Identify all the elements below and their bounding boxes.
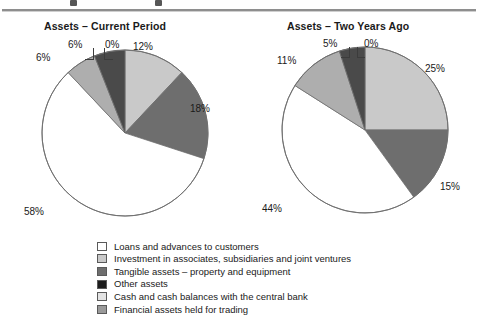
left-chart-title: Assets – Current Period xyxy=(44,20,166,32)
left-slice-label-trading: 6% xyxy=(68,39,82,50)
right-leader-other xyxy=(357,47,365,58)
right-slice-label-loans: 44% xyxy=(262,203,282,214)
legend-swatch-investment xyxy=(97,254,107,263)
legend-swatch-tangible xyxy=(97,267,107,276)
clipped-text-glyph xyxy=(155,0,162,6)
right-slice-label-trading: 5% xyxy=(323,38,337,49)
right-chart-title: Assets – Two Years Ago xyxy=(287,20,409,32)
left-pie-chart xyxy=(41,47,209,219)
pie-slice xyxy=(365,47,448,130)
clipped-text-glyph xyxy=(70,0,77,6)
right-slice-label-investment: 25% xyxy=(425,63,445,74)
legend-item: Tangible assets – property and equipment xyxy=(97,265,351,278)
left-leader-other xyxy=(104,48,113,60)
legend-label-cash: Cash and cash balances with the central … xyxy=(114,292,308,302)
right-slice-label-tangible: 15% xyxy=(440,181,460,192)
legend-item: Other assets xyxy=(97,278,351,291)
legend: Loans and advances to customers Investme… xyxy=(97,240,351,316)
right-slice-label-cash: 11% xyxy=(277,55,296,66)
legend-item: Financial assets held for trading xyxy=(97,303,351,316)
left-slice-label-tangible: 18% xyxy=(190,103,210,114)
legend-swatch-loans xyxy=(97,242,107,251)
left-pie-svg xyxy=(41,47,209,219)
right-slice-label-other: 0% xyxy=(364,38,378,49)
legend-label-tangible: Tangible assets – property and equipment xyxy=(114,267,290,277)
legend-label-other: Other assets xyxy=(114,279,168,289)
legend-item: Investment in associates, subsidiaries a… xyxy=(97,253,351,266)
legend-item: Loans and advances to customers xyxy=(97,240,351,253)
legend-swatch-trading xyxy=(97,305,107,314)
left-leader-trading xyxy=(85,48,94,60)
top-divider-rule-shadow xyxy=(2,11,476,12)
legend-item: Cash and cash balances with the central … xyxy=(97,290,351,303)
legend-label-trading: Financial assets held for trading xyxy=(114,305,248,315)
figure-root: Assets – Current Period 12% 18% 58% 6% 6… xyxy=(0,0,478,325)
legend-label-investment: Investment in associates, subsidiaries a… xyxy=(114,254,351,264)
left-slice-label-investment: 12% xyxy=(133,41,153,52)
legend-swatch-other xyxy=(97,280,107,289)
right-pie-chart xyxy=(281,44,449,216)
legend-label-loans: Loans and advances to customers xyxy=(114,242,259,252)
left-slice-label-cash: 6% xyxy=(36,52,50,63)
right-pie-svg xyxy=(281,44,449,216)
left-slice-label-loans: 58% xyxy=(24,206,44,217)
legend-swatch-cash xyxy=(97,292,107,301)
right-leader-trading xyxy=(341,47,350,58)
